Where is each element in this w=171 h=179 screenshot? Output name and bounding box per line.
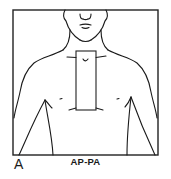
ap-pa-positioning-figure: A AP-PA <box>0 0 171 179</box>
collimation-field-rectangle <box>76 51 96 110</box>
clavicle-lines <box>67 56 106 58</box>
sternal-notch-mark <box>83 59 88 61</box>
left-arm-lines <box>19 100 53 155</box>
mouth-icon <box>80 24 91 28</box>
figure-frame <box>13 10 158 155</box>
nose-icon <box>80 14 91 20</box>
right-nipple-mark <box>117 99 119 100</box>
chest-illustration <box>0 0 171 179</box>
left-nipple-mark <box>60 99 62 100</box>
projection-label: AP-PA <box>0 157 171 167</box>
face-outline <box>64 10 108 42</box>
right-arm-lines <box>125 97 155 155</box>
neck-outline <box>63 30 108 50</box>
